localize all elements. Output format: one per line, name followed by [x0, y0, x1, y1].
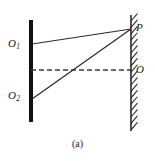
- label-o: O: [136, 64, 144, 75]
- label-o1: O1: [8, 38, 20, 51]
- figure-caption: (a): [0, 138, 155, 149]
- physics-figure: O1 O2 P O (a): [0, 0, 155, 161]
- ray-o1-to-p: [32, 29, 131, 44]
- diagram-canvas: [0, 0, 155, 161]
- label-p: P: [136, 22, 143, 33]
- label-o2-subscript: 2: [16, 94, 20, 103]
- ray-o2-to-p: [32, 29, 131, 99]
- label-o2: O2: [8, 90, 20, 103]
- label-o1-subscript: 1: [16, 42, 20, 51]
- label-o2-base: O: [8, 89, 16, 101]
- label-o1-base: O: [8, 37, 16, 49]
